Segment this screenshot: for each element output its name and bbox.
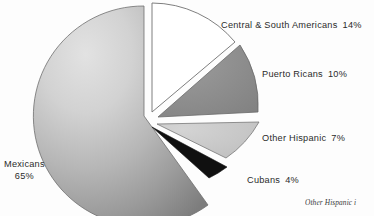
pie-label-value: 14% bbox=[343, 20, 362, 30]
pie-label-name: Cubans bbox=[247, 175, 280, 185]
pie-label-name: Puerto Ricans bbox=[262, 69, 323, 79]
pie-label-value: 7% bbox=[331, 133, 345, 143]
pie-label-value: 4% bbox=[285, 175, 299, 185]
pie-label-mexicans: Mexicans 65% bbox=[4, 159, 45, 182]
pie-label-other-hispanic: Other Hispanic7% bbox=[262, 133, 345, 144]
pie-chart-figure: Central & South Americans14% Puerto Rica… bbox=[0, 0, 374, 216]
pie-label-central-south-americans: Central & South Americans14% bbox=[221, 20, 362, 31]
pie-label-puerto-ricans: Puerto Ricans10% bbox=[262, 69, 347, 80]
pie-chart-graphic bbox=[0, 0, 374, 216]
figure-footnote: Other Hispanic i bbox=[305, 198, 374, 207]
pie-label-name: Central & South Americans bbox=[221, 20, 338, 30]
pie-label-cubans: Cubans4% bbox=[247, 175, 299, 186]
pie-label-value: 10% bbox=[328, 69, 347, 79]
pie-label-name: Other Hispanic bbox=[262, 133, 326, 143]
pie-label-name: Mexicans bbox=[4, 159, 45, 171]
pie-label-value: 65% bbox=[4, 171, 45, 183]
